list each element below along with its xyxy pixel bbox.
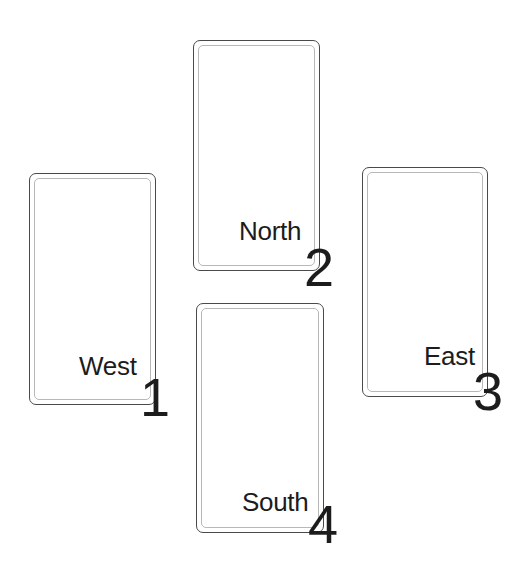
label-west: West [79,353,137,379]
label-east: East [424,343,475,369]
number-north: 2 [304,240,334,294]
number-east: 3 [473,364,503,418]
label-north: North [239,218,301,244]
number-south: 4 [308,497,338,551]
number-west: 1 [140,370,170,424]
label-south: South [242,489,308,515]
